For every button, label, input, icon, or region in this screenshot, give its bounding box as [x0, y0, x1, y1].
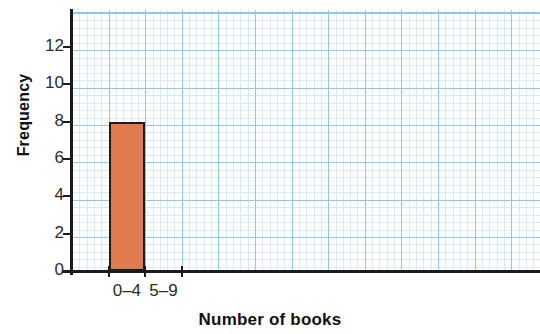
y-axis-tick-label-text: 8 [36, 111, 64, 131]
x-axis-tick-mark [181, 266, 183, 277]
y-axis-tick-label-text: 12 [36, 36, 64, 56]
y-axis-line [70, 9, 73, 275]
x-axis-line [62, 270, 540, 273]
histogram-figure: 121086420 0–45–9 Frequency Number of boo… [0, 0, 540, 334]
y-axis-tick-mark [63, 46, 73, 48]
histogram-bar [109, 122, 146, 271]
y-axis-tick-mark [63, 233, 73, 235]
y-axis-tick-label-text: 4 [36, 185, 64, 205]
y-axis-tick-mark [63, 270, 73, 272]
x-axis-tick-mark [144, 266, 146, 277]
y-axis-tick-label-text: 0 [36, 260, 64, 280]
y-axis-tick-mark [63, 195, 73, 197]
y-axis-tick-mark [63, 121, 73, 123]
y-axis-tick-label-text: 10 [36, 73, 64, 93]
y-axis-tick-mark [63, 158, 73, 160]
x-axis-tick-mark [108, 266, 110, 277]
y-axis-tick-mark [63, 83, 73, 85]
chart-plot-area [72, 10, 540, 272]
y-axis-tick-label-text: 2 [36, 223, 64, 243]
x-axis-tick-label: 5–9 [134, 281, 194, 301]
y-axis-tick-label-text: 6 [36, 148, 64, 168]
x-axis-title: Number of books [0, 310, 540, 330]
y-axis-title: Frequency [15, 55, 33, 175]
